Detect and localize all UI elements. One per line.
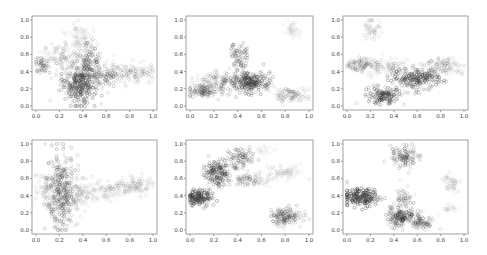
scatter-points — [346, 143, 463, 232]
x-tick-label: 0.8 — [436, 237, 445, 243]
y-tick-label: 0.8 — [331, 158, 340, 164]
x-tick-label: 0.6 — [413, 237, 422, 243]
y-tick-label: 0.2 — [331, 210, 340, 216]
y-tick-label: 0.0 — [331, 227, 340, 233]
x-tick-label: 0.2 — [366, 237, 375, 243]
x-tick-label: 0.0 — [343, 237, 352, 243]
scatter-plot-6: 0.00.20.40.60.81.00.00.20.40.60.81.0 — [0, 0, 487, 255]
x-tick-label: 1.0 — [460, 237, 469, 243]
x-tick-label: 0.4 — [389, 237, 398, 243]
y-tick-label: 0.6 — [331, 175, 340, 181]
y-tick-label: 0.4 — [331, 193, 340, 199]
y-tick-label: 1.0 — [331, 141, 340, 147]
